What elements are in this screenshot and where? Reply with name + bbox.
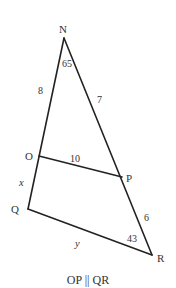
segment-NR <box>64 38 152 255</box>
side-NP-label: 7 <box>97 94 102 105</box>
side-NO-label: 8 <box>38 85 43 96</box>
segment-NQ <box>28 38 64 209</box>
vertex-label-R: R <box>157 252 165 264</box>
vertex-label-P: P <box>126 172 132 184</box>
side-QR-label: y <box>74 238 80 249</box>
vertex-label-Q: Q <box>11 203 19 215</box>
geometry-diagram: N O P Q R 65 8 7 10 x 6 43 y OP || QR <box>0 0 176 288</box>
parallel-caption: OP || QR <box>67 273 109 287</box>
side-OQ-label: x <box>18 177 24 188</box>
angle-R-label: 43 <box>127 233 137 244</box>
angle-N-label: 65 <box>62 58 72 69</box>
side-PR-label: 6 <box>144 212 149 223</box>
segment-OP <box>39 156 122 177</box>
segment-QR <box>28 209 152 255</box>
vertex-label-O: O <box>25 150 33 162</box>
vertex-label-N: N <box>59 23 67 35</box>
side-OP-label: 10 <box>70 153 80 164</box>
